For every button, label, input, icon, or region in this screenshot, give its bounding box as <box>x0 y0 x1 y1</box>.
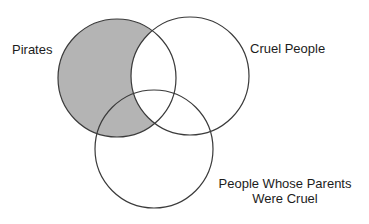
label-parents-line-2: Were Cruel <box>211 191 359 206</box>
label-parents-line-1: People Whose Parents <box>211 176 359 191</box>
label-parents-cruel: People Whose Parents Were Cruel <box>211 176 359 206</box>
label-pirates: Pirates <box>12 42 52 57</box>
venn-diagram: Pirates Cruel People People Whose Parent… <box>0 0 369 224</box>
label-cruel-people: Cruel People <box>250 41 325 56</box>
